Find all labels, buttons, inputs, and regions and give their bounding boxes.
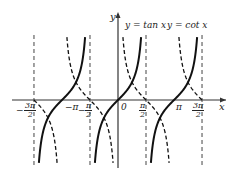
chart: y x y = tan x y = cot x 0 −π π − 3π2 − π… (0, 0, 237, 174)
y-axis-label: y (110, 12, 116, 22)
tick-label-pi: π (176, 103, 182, 112)
tick-label-pi2: π2 (139, 102, 146, 119)
x-axis-label: x (219, 102, 225, 112)
tick-sign-neg-3pi2: − (16, 106, 24, 115)
y-axis-arrow-icon (116, 12, 121, 18)
tick-label-3pi2: 3π2 (192, 102, 204, 119)
legend-cot: y = cot x (167, 21, 207, 30)
tick-label-neg-pi2: π2 (85, 102, 92, 119)
legend-tan: y = tan x (125, 21, 166, 30)
tick-label-0: 0 (121, 103, 127, 112)
tick-label-neg-pi: −π (65, 103, 78, 112)
tick-label-neg-3pi2: 3π2 (24, 102, 36, 119)
